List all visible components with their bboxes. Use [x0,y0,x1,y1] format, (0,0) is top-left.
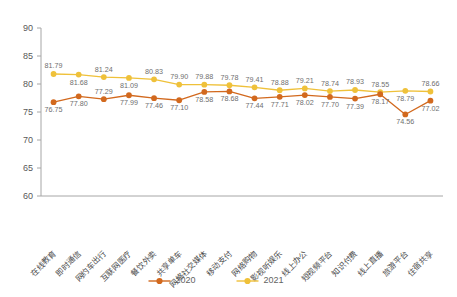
value-label-2021-15: 78.66 [421,79,439,88]
value-label-2021-0: 81.79 [45,61,63,70]
value-label-2021-7: 79.78 [220,73,238,82]
value-label-2021-5: 79.90 [170,72,188,81]
line-chart: 60657075808590 81.7981.6881.2481.0980.83… [0,0,457,297]
value-label-2021-4: 80.83 [145,67,163,76]
data-point-2021-4 [151,76,157,82]
value-label-2021-14: 78.79 [396,94,414,103]
x-axis-label-4: 餐饮外卖 [129,248,159,278]
value-label-2021-13: 78.55 [371,80,389,89]
value-label-2021-6: 79.88 [195,72,213,81]
value-label-2020-15: 77.02 [421,104,439,113]
value-label-2020-14: 74.56 [396,117,414,126]
data-point-2021-15 [428,89,434,95]
data-point-2021-10 [302,86,308,92]
x-axis-category-labels: 在线教育即时通信网约车出行互联网医疗餐饮外卖共享单车网络社交媒体移动支付网络购物… [28,248,435,289]
legend-marker-2021[interactable] [244,278,250,284]
data-point-2021-9 [277,87,283,93]
value-label-2020-9: 77.71 [271,100,289,109]
value-label-2021-12: 78.93 [346,77,364,86]
value-label-2020-13: 78.17 [371,97,389,106]
value-label-2020-5: 77.10 [170,103,188,112]
value-label-2020-1: 77.80 [70,99,88,108]
chart-container: 60657075808590 81.7981.6881.2481.0980.83… [0,0,457,297]
x-axis-label-15: 住宿共享 [405,248,435,278]
value-label-2020-6: 78.58 [195,95,213,104]
legend-marker-2020[interactable] [156,278,162,284]
legend-label-2021[interactable]: 2021 [264,275,284,285]
data-point-2020-2 [101,96,107,102]
value-label-2020-7: 78.68 [220,94,238,103]
value-label-2020-11: 77.70 [321,100,339,109]
value-label-2021-8: 79.41 [246,75,264,84]
y-axis-tick-label: 65 [23,163,33,173]
y-axis-tick-label: 75 [23,107,33,117]
data-point-2021-2 [101,74,107,80]
y-axis: 60657075808590 [23,23,443,201]
data-point-2021-11 [327,88,333,94]
data-series-group: 81.7981.6881.2481.0980.8379.9079.8879.78… [45,61,440,126]
y-axis-tick-label: 70 [23,135,33,145]
value-label-2020-0: 76.75 [45,105,63,114]
data-point-2021-8 [252,84,258,90]
value-label-2021-1: 81.68 [70,78,88,87]
value-label-2021-11: 78.74 [321,79,339,88]
value-label-2021-9: 78.88 [271,78,289,87]
data-point-2021-5 [176,82,182,88]
legend-label-2020[interactable]: 2020 [176,275,196,285]
value-label-2020-12: 77.39 [346,102,364,111]
value-label-2020-2: 77.29 [95,87,113,96]
y-axis-tick-label: 85 [23,51,33,61]
x-axis-label-12: 知识付费 [330,248,360,278]
x-axis-label-7: 移动支付 [204,248,234,278]
data-point-2021-7 [227,82,233,88]
data-point-2021-12 [352,87,358,93]
y-axis-tick-label: 60 [23,191,33,201]
value-label-2020-4: 77.46 [145,101,163,110]
value-label-2020-3: 77.99 [120,98,138,107]
value-label-2021-3: 81.09 [120,81,138,90]
x-axis-label-14: 旅游平台 [380,248,410,278]
x-axis-label-0: 在线教育 [28,248,58,278]
y-axis-tick-label: 90 [23,23,33,33]
data-point-2021-6 [201,82,207,88]
value-label-2021-10: 79.21 [296,76,314,85]
y-axis-tick-label: 80 [23,79,33,89]
value-label-2020-8: 77.44 [246,101,264,110]
value-label-2021-2: 81.24 [95,65,113,74]
data-point-2021-0 [51,71,57,77]
value-label-2020-10: 78.02 [296,98,314,107]
x-axis-label-13: 线上直播 [355,248,385,278]
